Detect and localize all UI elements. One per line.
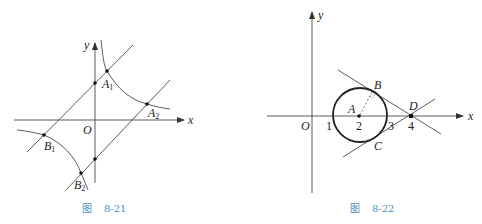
figure-8-21: x y O A1 A2 B1 B2 图8-21 <box>14 38 194 214</box>
point-A2-label: A2 <box>147 106 159 121</box>
point-A-dot <box>357 114 361 118</box>
right-angle-mark <box>370 94 375 98</box>
point-A1-label: A1 <box>101 77 113 92</box>
point-D-label: D <box>408 99 418 113</box>
diagram-canvas: x y O A1 A2 B1 B2 图8-21 x y O 1 2 3 <box>0 0 482 224</box>
point-C-label: C <box>374 139 383 153</box>
point-B1-label: B1 <box>44 139 55 154</box>
point-B1-dot <box>42 133 46 137</box>
radius-AB-dashed <box>360 92 372 115</box>
figure-caption: 图8-22 <box>350 203 394 214</box>
point-B-label: B <box>374 78 382 92</box>
point-B2-dot <box>79 171 83 175</box>
origin-label: O <box>301 119 310 133</box>
tick-3: 3 <box>388 119 394 133</box>
tick-1: 1 <box>326 119 332 133</box>
origin-label: O <box>83 123 92 137</box>
x-axis-label: x <box>467 109 474 123</box>
figure-caption: 图8-21 <box>82 203 126 214</box>
y-intercept-upper-dot <box>93 81 97 85</box>
point-A1-dot <box>105 69 109 73</box>
point-A-label: A <box>347 102 356 116</box>
point-D-dot <box>409 114 413 118</box>
tick-2: 2 <box>356 119 362 133</box>
y-axis-label: y <box>317 8 324 22</box>
figure-8-22: x y O 1 2 3 4 A B C D 图8-22 <box>267 8 474 214</box>
x-axis-label: x <box>187 113 194 127</box>
hyperbola-upper-branch <box>101 40 170 109</box>
tick-4: 4 <box>408 119 414 133</box>
y-axis-label: y <box>83 38 90 52</box>
y-intercept-lower-dot <box>93 157 97 161</box>
